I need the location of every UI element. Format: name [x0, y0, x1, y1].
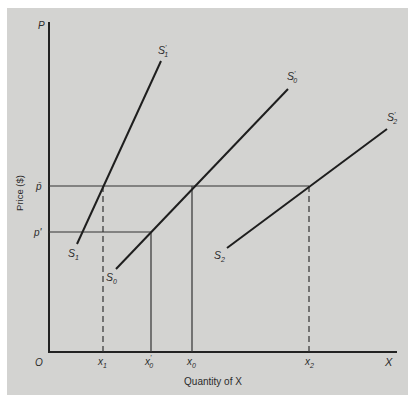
- y-axis-title: Price ($): [14, 175, 25, 211]
- tick-x0: x0: [186, 356, 196, 369]
- origin-label: O: [35, 357, 43, 368]
- tick-x0-sub: 0: [192, 362, 196, 369]
- supply-diagram: P X O Price ($) Quantity of X p̄ p' x1 x…: [0, 0, 415, 403]
- label-s0-prime-mark: ': [294, 70, 296, 77]
- label-s1: S1: [68, 247, 79, 261]
- p-prime-label: p': [33, 227, 43, 238]
- p-bar-label: p̄: [35, 181, 42, 192]
- tick-x2: x2: [304, 356, 314, 369]
- svg-text:x'0: x'0: [144, 354, 153, 369]
- y-axis-symbol: P: [38, 20, 45, 31]
- label-s2: S2: [214, 249, 225, 263]
- tick-x0-prime-mark: ': [150, 354, 152, 361]
- svg-text:S'2: S'2: [387, 111, 397, 125]
- svg-text:x1: x1: [97, 356, 107, 369]
- label-s1-prime: S'1: [158, 44, 168, 58]
- x-axis-symbol: X: [384, 356, 393, 368]
- svg-text:S2: S2: [214, 249, 225, 263]
- label-s0-prime-sub: 0: [293, 77, 297, 84]
- label-s1-prime-mark: ': [165, 44, 167, 51]
- svg-text:x0: x0: [186, 356, 196, 369]
- label-s2-sub: 2: [220, 256, 225, 263]
- label-s0-base: S: [106, 271, 113, 283]
- label-s2-prime-sub: 2: [392, 118, 397, 125]
- svg-text:x2: x2: [304, 356, 314, 369]
- label-s0-sub: 0: [113, 278, 117, 285]
- tick-x1-sub: 1: [103, 362, 107, 369]
- label-s0-prime: S'0: [287, 70, 297, 84]
- supply-curve-s0: [116, 89, 288, 269]
- supply-curve-s2: [227, 129, 387, 248]
- label-s2-prime-mark: ': [394, 111, 396, 118]
- svg-text:S'1: S'1: [158, 44, 168, 58]
- x-axis-title: Quantity of X: [184, 376, 242, 387]
- label-s1-sub: 1: [75, 254, 79, 261]
- supply-curve-s1: [77, 61, 161, 244]
- label-s1-prime-sub: 1: [164, 51, 168, 58]
- tick-x0-prime: x'0: [144, 354, 153, 369]
- tick-x0-prime-sub: 0: [149, 362, 153, 369]
- tick-x1: x1: [97, 356, 107, 369]
- svg-text:S1: S1: [68, 247, 79, 261]
- svg-text:S'0: S'0: [287, 70, 297, 84]
- label-s2-base: S: [214, 249, 221, 261]
- label-s0: S0: [106, 271, 117, 285]
- label-s1-base: S: [68, 247, 75, 259]
- label-s2-prime: S'2: [387, 111, 397, 125]
- svg-text:S0: S0: [106, 271, 117, 285]
- tick-x2-sub: 2: [309, 362, 314, 369]
